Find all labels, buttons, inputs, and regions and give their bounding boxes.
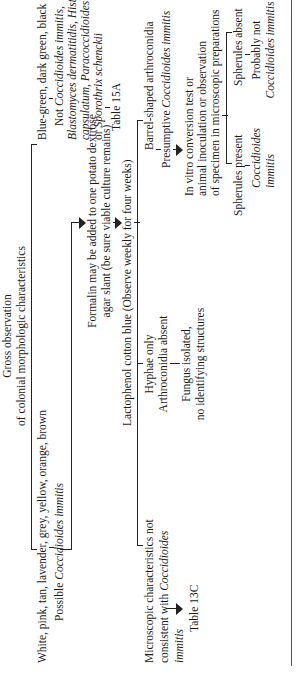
test-line1: In vitro conversion test or: [183, 77, 196, 196]
species-name: Coccidioides immitis,: [53, 6, 65, 106]
micro-not-consistent-line3: immitis: [173, 629, 186, 663]
fungus-isolated: Fungus isolated,: [180, 304, 193, 424]
micro-not-consistent-line2: consistent with Coccidioides: [158, 531, 171, 663]
right-branch-not: Not Coccidioides immitis,: [53, 6, 66, 126]
table-13c-ref: Table 13C: [188, 585, 201, 632]
arrow-down-icon: [79, 217, 86, 229]
barrel-shaped-arthroconidia: Barrel-shaped arthroconidia: [143, 21, 156, 150]
root-title-line1: Gross observation: [1, 236, 14, 436]
spherules-absent-result-1: Probably not: [250, 0, 263, 100]
spherules-present-result-1: Coccidioides: [250, 128, 263, 188]
left-branch-colors: White, pink, tan, lavender, grey, yellow…: [36, 410, 49, 663]
table-15a-ref: Table 15A: [110, 83, 123, 131]
spherules-absent: Spherules absent: [232, 8, 245, 86]
arrow-down-icon: [176, 603, 183, 615]
right-branch-species-3: or Sporothrix schenckii: [92, 33, 105, 140]
arrow-down-icon: [176, 144, 183, 156]
hyphae-only: Hyphae only: [143, 314, 156, 414]
test-line2: animal inoculation or observation: [196, 41, 209, 196]
spherules-present-result-2: immitis: [264, 154, 277, 188]
test-stem: [222, 115, 228, 116]
micro-not-consistent-line1: Microscopic characteristics not: [143, 519, 156, 663]
spherules-absent-result-2: Coccidioides immitis: [264, 0, 277, 110]
flowchart-canvas: Gross observation of colonial morphologi…: [0, 0, 297, 676]
right-branch-tick: [31, 144, 37, 145]
formalin-path-bar: [71, 222, 72, 550]
root-split-bar: [31, 144, 32, 550]
spherules-present: Spherules present: [232, 135, 245, 216]
root-title-line2: of colonial morphologic characteristics: [15, 216, 28, 456]
presumptive: Presumptive Coccidioides immitis: [160, 11, 173, 168]
species-name: Coccidioides immitis: [53, 483, 65, 580]
lacto-split-bar: [137, 120, 138, 546]
spherules-split-bar: [226, 32, 227, 164]
arthroconidia-absent: Arthroconidia absent: [157, 304, 170, 424]
bottom-rule: [291, 0, 292, 666]
hyphae-result-connector: [170, 363, 180, 364]
lactophenol-step: Lactophenol cotton blue (Observe weekly …: [121, 159, 134, 426]
right-branch-species-2: capsulatum, Paracoccidioides brasiliensi…: [79, 0, 92, 140]
test-line3: of specimen in microscopic preparations: [209, 10, 222, 197]
right-branch-species-1: Blastomyces dermatitidis, Histoplasma: [66, 0, 79, 140]
left-branch-possible: Possible Coccidioides immitis: [53, 483, 66, 621]
right-branch-colors: Blue-green, dark green, black: [36, 4, 49, 140]
no-identifying-structures: no identifying structures: [194, 284, 207, 444]
